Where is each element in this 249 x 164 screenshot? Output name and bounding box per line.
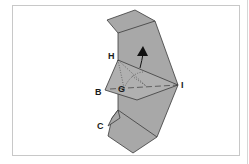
- label-g: G: [118, 84, 125, 94]
- folding-diagram: H I B G C: [0, 0, 249, 164]
- label-h: H: [108, 51, 115, 61]
- label-b: B: [95, 87, 102, 97]
- label-c: C: [97, 121, 104, 131]
- label-i: I: [181, 80, 184, 90]
